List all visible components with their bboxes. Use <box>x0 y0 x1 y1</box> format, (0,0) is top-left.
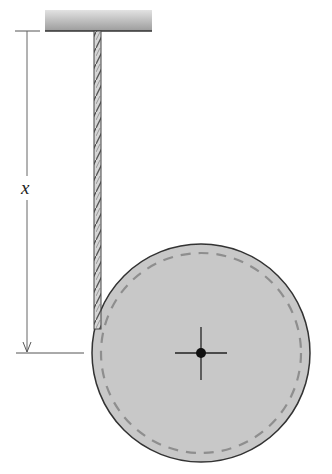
distance-label-x: x <box>20 178 30 198</box>
figure-canvas <box>0 0 332 474</box>
cord <box>94 31 101 329</box>
ceiling-support <box>45 10 152 31</box>
